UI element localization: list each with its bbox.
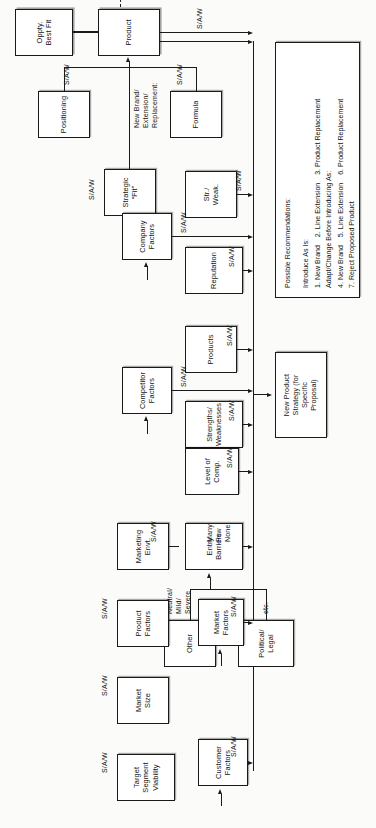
- entry-barriers-out-arrow: [248, 545, 253, 549]
- strategic-group-bus: [64, 67, 197, 68]
- edge-label-market-size-saw: S/A/W: [101, 675, 110, 696]
- competitor-factors-in-bus: [147, 420, 148, 434]
- node-oppty-best-fit: Oppty. Best Fit: [15, 9, 73, 56]
- level-of-comp-out-arrow: [248, 470, 253, 474]
- company-factors-out-arrow: [248, 235, 253, 239]
- edge-label-marketing-envt-saw: S/A/W: [150, 521, 159, 542]
- strategic-fit-out-line: [129, 61, 130, 169]
- recommendations-heading: Possible Recommendations:: [283, 52, 294, 288]
- competitor-factors-in-arrow: [144, 416, 148, 421]
- node-customer-factors: Customer Factors: [198, 739, 248, 786]
- products-out-arrow: [248, 348, 253, 352]
- strategic-group-arrow: [126, 57, 130, 62]
- node-target-segment-viability: Target Segment Viability: [117, 754, 175, 801]
- product-out-arrow: [248, 31, 253, 35]
- edge-label-customer-factors-saw: S/A/W: [230, 736, 239, 757]
- market-factors-in-arrow: [218, 649, 222, 654]
- product-out-line: [160, 32, 248, 33]
- customer-factors-in-bus: [221, 794, 222, 806]
- company-factors-in-bus: [147, 266, 148, 280]
- competitor-factors-out-arrow: [248, 389, 253, 393]
- node-strategic-fit: Strategic “Fit”: [104, 169, 156, 216]
- edge-label-reputation-saw: S/A/W: [228, 246, 237, 267]
- recommendations-group3-items: 7. Reject Proposed Product: [347, 52, 358, 288]
- strategy-feed-arrow: [267, 393, 272, 397]
- formula-out-line: [196, 67, 197, 91]
- node-str-weak: Str./ Weak.: [185, 171, 237, 218]
- edge-label-level-of-comp-saw: S/A/W: [226, 447, 235, 468]
- competitor-factors-out-line: [172, 390, 248, 391]
- node-product: Product: [98, 9, 160, 56]
- marketing-envt-out-line: [169, 546, 179, 547]
- edge-label-strengths-saw: S/A/W: [228, 400, 237, 421]
- recommendations-group2-items: 4. New Brand 5. Line Extension 6. Produc…: [336, 52, 347, 288]
- edge-label-strategic-fit-saw: S/A/W: [88, 179, 97, 200]
- possible-recommendations-box: Possible Recommendations: Introduce As I…: [275, 42, 360, 298]
- macro-env-bus: [190, 589, 267, 590]
- market-factors-in-bus: [221, 654, 222, 666]
- edge-label-product-saw: S/A/W: [196, 8, 205, 29]
- edge-label-company-factors-saw: S/A/W: [180, 212, 189, 233]
- entry-barriers-in-arrow: [207, 573, 211, 578]
- node-new-product-strategy: New Product Strategy (for Specific Propo…: [275, 352, 327, 438]
- customer-factors-out-arrow: [248, 761, 253, 765]
- node-formula: Formula: [170, 91, 222, 138]
- link-oppty-to-product: [73, 31, 98, 33]
- edge-label-str-weak-saw: S/A/W: [235, 170, 244, 191]
- customer-factors-in-arrow: [218, 789, 222, 794]
- edge-label-entry-barriers-options: Many Few None: [206, 524, 232, 542]
- strategy-feed-vertical: [253, 394, 267, 395]
- market-factors-out-arrow: [248, 621, 253, 625]
- node-positioning: Positioning: [38, 91, 90, 138]
- node-product-factors: Product Factors: [117, 600, 169, 647]
- edge-label-other-severity: Neutral/ Mild/ Severe: [166, 588, 192, 614]
- recommendations-group2-heading: Adapt/Change Before Introducing As:: [324, 52, 335, 288]
- node-company-factors: Company Factors: [122, 213, 172, 260]
- recommendations-group1-items: 1. New Brand 2. Line Extension 3. Produc…: [313, 52, 324, 288]
- political-legal-out-line: [266, 590, 267, 620]
- node-marketing-envt: Marketing Envt.: [117, 523, 169, 570]
- str-weak-out-arrow: [248, 193, 253, 197]
- strengths-out-arrow: [248, 423, 253, 427]
- reputation-out-arrow: [248, 269, 253, 273]
- node-competitor-factors: Competitor Factors: [122, 367, 172, 414]
- company-factors-out-line: [172, 236, 248, 237]
- diagram-canvas: Oppty. Best Fit Product S/A/W Strategic …: [0, 0, 376, 828]
- node-political-legal: Political/ Legal: [238, 620, 294, 667]
- company-factors-in-arrow: [144, 262, 148, 267]
- edge-label-target-segment-saw: S/A/W: [101, 752, 110, 773]
- other-out-line: [190, 590, 191, 620]
- recommendations-group1-heading: Introduce As Is:: [301, 52, 312, 288]
- positioning-out-line: [64, 67, 65, 91]
- edge-label-products-saw: S/A/W: [226, 325, 235, 346]
- annotation-new-brand-extension-replacement: New Brand/ Extension/ Replacement:: [132, 82, 159, 128]
- edge-label-market-factors-saw: S/A/W: [230, 596, 239, 617]
- edge-label-product-factors-saw: S/A/W: [101, 598, 110, 619]
- edge-label-competitor-factors-saw: S/A/W: [180, 366, 189, 387]
- node-market-size: Market Size: [117, 677, 169, 724]
